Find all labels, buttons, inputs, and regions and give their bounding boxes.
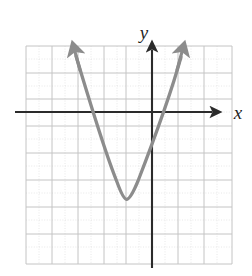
x-axis-label: x	[233, 102, 243, 123]
y-axis-label: y	[138, 22, 149, 43]
coordinate-plane-svg: y x	[0, 0, 252, 276]
plot-background	[26, 46, 232, 264]
graph-figure: y x	[0, 0, 252, 276]
